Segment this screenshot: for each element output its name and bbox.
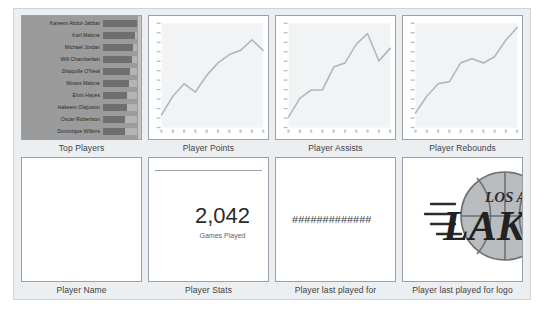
top-players-row[interactable]: Wilt Chamberlain	[25, 55, 137, 64]
top-players-row[interactable]: Karl Malone	[25, 31, 137, 40]
player-points-chart[interactable]	[149, 16, 268, 139]
player-stats-card: 2,042 Games Played	[149, 158, 268, 281]
top-players-row-bar	[103, 92, 127, 99]
top-players-row-bar	[103, 128, 125, 135]
player-name-body[interactable]	[21, 157, 142, 282]
top-players-row-bar	[103, 20, 137, 27]
top-players-row-bar-track	[103, 116, 137, 123]
tile-player-rebounds[interactable]: Player Rebounds	[402, 15, 523, 153]
top-players-body[interactable]: Kareem Abdul-JabbarKarl MaloneMichael Jo…	[21, 15, 142, 140]
report-canvas: Kareem Abdul-JabbarKarl MaloneMichael Jo…	[13, 8, 531, 300]
top-players-row-bar-track	[103, 92, 137, 99]
top-players-row[interactable]: Elvin Hayes	[25, 91, 137, 100]
player-assists-chart[interactable]	[276, 16, 395, 139]
top-players-row-name: Karl Malone	[25, 31, 101, 40]
top-players-row-bar-track	[103, 32, 137, 39]
player-stats-caption: Games Played	[163, 232, 269, 239]
player-rebounds-body[interactable]	[402, 15, 523, 140]
top-players-row-name: Wilt Chamberlain	[25, 55, 101, 64]
top-players-row-bar-track	[103, 80, 137, 87]
top-players-row-name: Elvin Hayes	[25, 91, 101, 100]
top-players-row-bar-track	[103, 128, 137, 135]
tile-player-points[interactable]: Player Points	[148, 15, 269, 153]
top-players-row-name: Oscar Robertson	[25, 115, 101, 124]
top-players-row-bar	[103, 104, 127, 111]
top-players-row-bar	[103, 68, 130, 75]
tile-label-player-name: Player Name	[21, 282, 142, 295]
lakers-logo-text-main: LAKE	[442, 203, 522, 249]
tile-player-stats[interactable]: 2,042 Games Played Player Stats	[148, 157, 269, 295]
top-players-row-bar-track	[103, 20, 137, 27]
tile-player-last-played-for-logo[interactable]: LOS A LAKE Player last played for logo	[402, 157, 523, 295]
player-stats-body[interactable]: 2,042 Games Played	[148, 157, 269, 282]
top-players-row-name: Moses Malone	[25, 79, 101, 88]
top-players-row-bar-track	[103, 44, 137, 51]
tile-label-top-players: Top Players	[21, 140, 142, 153]
player-stats-divider	[155, 170, 262, 171]
player-rebounds-chart[interactable]	[403, 16, 522, 139]
top-players-row-bar-track	[103, 68, 137, 75]
report-grid: Kareem Abdul-JabbarKarl MaloneMichael Jo…	[14, 9, 530, 299]
tile-player-name[interactable]: Player Name	[21, 157, 142, 295]
player-assists-body[interactable]	[275, 15, 396, 140]
tile-label-player-points: Player Points	[148, 140, 269, 153]
top-players-row-name: Hakeem Olajuwon	[25, 103, 101, 112]
top-players-row[interactable]: Dominique Wilkins	[25, 127, 137, 136]
tile-label-player-rebounds: Player Rebounds	[402, 140, 523, 153]
player-last-played-for-body[interactable]: #############	[275, 157, 396, 282]
player-stats-inner: 2,042 Games Played	[163, 205, 269, 239]
top-players-row[interactable]: Hakeem Olajuwon	[25, 103, 137, 112]
top-players-row-name: Shaquille O'Neal	[25, 67, 101, 76]
top-players-row-bar	[103, 32, 135, 39]
top-players-row[interactable]: Shaquille O'Neal	[25, 67, 137, 76]
top-players-row[interactable]: Michael Jordan	[25, 43, 137, 52]
player-last-played-for-logo-body[interactable]: LOS A LAKE	[402, 157, 523, 282]
top-players-row[interactable]: Oscar Robertson	[25, 115, 137, 124]
top-players-row[interactable]: Moses Malone	[25, 79, 137, 88]
top-players-row-bar	[103, 116, 125, 123]
top-players-row-bar-track	[103, 56, 137, 63]
tile-top-players[interactable]: Kareem Abdul-JabbarKarl MaloneMichael Jo…	[21, 15, 142, 153]
tile-label-player-stats: Player Stats	[148, 282, 269, 295]
top-players-row-name: Kareem Abdul-Jabbar	[25, 19, 101, 28]
top-players-row[interactable]: Kareem Abdul-Jabbar	[25, 19, 137, 28]
tile-label-player-last-played-for: Player last played for	[275, 282, 396, 295]
player-last-played-for-value: #############	[292, 214, 371, 226]
top-players-list[interactable]: Kareem Abdul-JabbarKarl MaloneMichael Jo…	[22, 16, 141, 139]
player-stats-value: 2,042	[163, 205, 269, 227]
top-players-row-bar	[103, 44, 133, 51]
top-players-row-name: Dominique Wilkins	[25, 127, 101, 136]
tile-label-player-assists: Player Assists	[275, 140, 396, 153]
tile-player-assists[interactable]: Player Assists	[275, 15, 396, 153]
top-players-row-bar	[103, 80, 129, 87]
player-last-played-for-card: #############	[276, 158, 395, 281]
top-players-row-bar-track	[103, 104, 137, 111]
top-players-row-bar	[103, 56, 132, 63]
tile-label-player-last-played-for-logo: Player last played for logo	[402, 282, 523, 295]
tile-player-last-played-for[interactable]: ############# Player last played for	[275, 157, 396, 295]
lakers-logo-card: LOS A LAKE	[403, 158, 522, 281]
player-points-body[interactable]	[148, 15, 269, 140]
los-angeles-lakers-logo-icon: LOS A LAKE	[421, 162, 522, 270]
top-players-row-name: Michael Jordan	[25, 43, 101, 52]
top-players-scrollbar[interactable]	[138, 16, 141, 139]
